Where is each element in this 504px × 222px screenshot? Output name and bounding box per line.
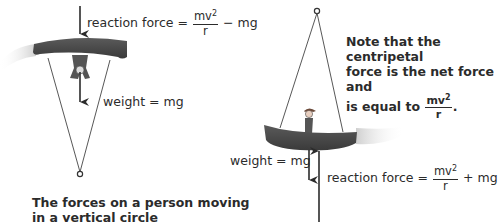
centripetal-note: Note that the centripetal force is the n… <box>346 34 504 120</box>
left-reaction-denominator: r <box>193 25 218 38</box>
note-suffix: . <box>453 99 458 114</box>
note-line-2: force is the net force and <box>346 64 504 94</box>
right-rope-2 <box>317 13 343 132</box>
left-reaction-numerator: mv <box>194 9 212 23</box>
right-pivot-icon <box>314 8 319 13</box>
right-reaction-force-label: reaction force = mv2 r + mg <box>327 165 498 192</box>
note-fraction: mv2 r <box>425 94 451 120</box>
note-line-1: Note that the centripetal <box>346 34 504 64</box>
note-numerator: mv <box>426 94 445 107</box>
left-reaction-force-label: reaction force = mv2 r − mg <box>87 10 258 37</box>
note-denominator: r <box>425 108 451 120</box>
note-exponent: 2 <box>445 93 451 102</box>
note-line-3: is equal to mv2 r . <box>346 94 504 120</box>
left-caption: The forces on a person moving in a verti… <box>32 195 250 222</box>
left-reaction-fraction: mv2 r <box>193 10 218 37</box>
caption-line-2: in a vertical circle <box>32 210 250 222</box>
left-weight-text: weight = mg <box>103 94 184 109</box>
right-weight-label: weight = mg <box>230 155 311 168</box>
left-weight-label: weight = mg <box>103 96 184 109</box>
right-reaction-numerator: mv <box>434 164 452 178</box>
right-reaction-text: reaction force = <box>327 170 428 185</box>
right-motion-blur <box>356 126 404 144</box>
right-reaction-fraction: mv2 r <box>433 165 458 192</box>
left-reaction-text: reaction force = <box>87 15 188 30</box>
right-person-icon <box>304 109 316 135</box>
left-pivot-icon <box>77 171 82 176</box>
caption-line-1: The forces on a person moving <box>32 195 250 210</box>
right-reaction-exponent: 2 <box>452 164 457 173</box>
left-reaction-exponent: 2 <box>212 9 217 18</box>
left-motion-blur <box>0 44 36 72</box>
note-line-3-prefix: is equal to <box>346 99 420 114</box>
left-reaction-suffix: − mg <box>223 15 258 30</box>
right-reaction-suffix: + mg <box>463 170 498 185</box>
right-reaction-denominator: r <box>433 180 458 193</box>
right-weight-text: weight = mg <box>230 153 311 168</box>
